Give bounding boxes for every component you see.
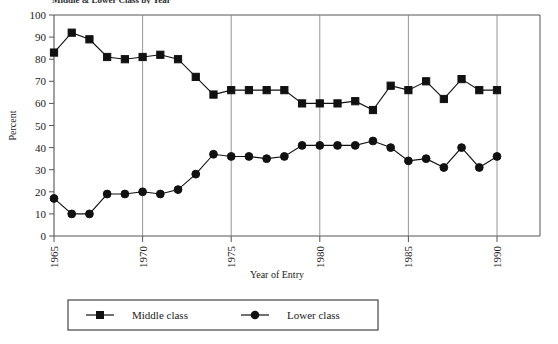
data-point-lower-class <box>493 153 501 161</box>
chart-legend: Middle classLower class <box>0 292 558 344</box>
data-point-middle-class <box>387 82 394 89</box>
data-point-lower-class <box>422 155 430 163</box>
y-tick-label: 40 <box>35 142 47 154</box>
data-point-middle-class <box>86 36 93 43</box>
data-point-middle-class <box>298 100 305 107</box>
data-point-middle-class <box>50 49 57 56</box>
y-axis-title: Percent <box>7 110 18 140</box>
data-point-lower-class <box>475 164 483 172</box>
data-point-lower-class <box>387 144 395 152</box>
data-point-middle-class <box>174 56 181 63</box>
chart-plot-container: 0102030405060708090100Percent19651970197… <box>0 0 558 300</box>
data-point-middle-class <box>104 53 111 60</box>
data-point-lower-class <box>458 144 466 152</box>
x-tick-label: 1965 <box>48 246 60 269</box>
y-tick-label: 0 <box>41 230 47 242</box>
y-tick-label: 50 <box>35 120 47 132</box>
data-point-lower-class <box>351 141 359 149</box>
legend-marker-square-icon <box>96 311 104 319</box>
data-point-lower-class <box>280 153 288 161</box>
series-line-lower-class <box>54 141 497 214</box>
data-point-middle-class <box>458 75 465 82</box>
data-point-lower-class <box>227 153 235 161</box>
data-point-lower-class <box>192 170 200 178</box>
data-point-middle-class <box>263 87 270 94</box>
data-point-lower-class <box>103 190 111 198</box>
data-point-middle-class <box>493 87 500 94</box>
legend-label-lower-class: Lower class <box>287 309 340 321</box>
data-point-lower-class <box>139 188 147 196</box>
line-chart: 0102030405060708090100Percent19651970197… <box>0 0 558 300</box>
data-point-middle-class <box>405 87 412 94</box>
y-tick-label: 70 <box>35 75 47 87</box>
data-point-lower-class <box>316 141 324 149</box>
data-point-lower-class <box>369 137 377 145</box>
legend-label-middle-class: Middle class <box>132 309 188 321</box>
x-tick-label: 1990 <box>491 246 503 269</box>
data-point-lower-class <box>440 164 448 172</box>
data-point-lower-class <box>405 157 413 165</box>
y-tick-label: 100 <box>30 9 47 21</box>
legend-marker-circle-icon <box>251 311 260 320</box>
data-point-lower-class <box>298 141 306 149</box>
data-point-middle-class <box>121 56 128 63</box>
y-tick-label: 60 <box>35 97 47 109</box>
data-point-lower-class <box>174 186 182 194</box>
data-point-lower-class <box>334 141 342 149</box>
data-point-middle-class <box>192 73 199 80</box>
data-point-middle-class <box>352 98 359 105</box>
x-tick-label: 1980 <box>314 246 326 269</box>
x-axis-title: Year of Entry <box>250 269 304 280</box>
data-point-lower-class <box>50 195 58 203</box>
series-line-middle-class <box>54 33 497 110</box>
data-point-middle-class <box>228 87 235 94</box>
data-point-middle-class <box>334 100 341 107</box>
y-tick-label: 80 <box>35 53 47 65</box>
data-point-middle-class <box>139 53 146 60</box>
data-point-middle-class <box>423 78 430 85</box>
x-tick-label: 1970 <box>137 246 149 269</box>
data-point-lower-class <box>68 210 76 218</box>
data-point-middle-class <box>157 51 164 58</box>
x-tick-label: 1975 <box>225 246 237 269</box>
data-point-middle-class <box>440 95 447 102</box>
y-tick-label: 10 <box>35 208 47 220</box>
data-point-middle-class <box>369 106 376 113</box>
data-point-lower-class <box>245 153 253 161</box>
data-point-lower-class <box>121 190 129 198</box>
y-tick-label: 90 <box>35 31 47 43</box>
data-point-lower-class <box>156 190 164 198</box>
data-point-lower-class <box>86 210 94 218</box>
data-point-middle-class <box>476 87 483 94</box>
data-point-lower-class <box>210 150 218 158</box>
y-tick-label: 30 <box>35 164 47 176</box>
data-point-lower-class <box>263 155 271 163</box>
data-point-middle-class <box>316 100 323 107</box>
data-point-middle-class <box>245 87 252 94</box>
data-point-middle-class <box>210 91 217 98</box>
data-point-middle-class <box>68 29 75 36</box>
y-tick-label: 20 <box>35 186 47 198</box>
data-point-middle-class <box>281 87 288 94</box>
x-tick-label: 1985 <box>402 246 414 269</box>
